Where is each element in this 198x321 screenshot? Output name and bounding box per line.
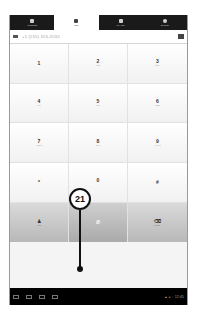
key-5[interactable]: 5JKL bbox=[69, 84, 128, 124]
key-9[interactable]: 9WXYZ bbox=[128, 123, 187, 163]
number-field[interactable]: +1 (555) 555-5555 bbox=[10, 30, 187, 44]
key-6[interactable]: 6MNO bbox=[128, 84, 187, 124]
home-icon[interactable] bbox=[26, 295, 32, 299]
recent-apps-icon[interactable] bbox=[39, 295, 45, 299]
callout-leader-line bbox=[79, 210, 81, 269]
clock-icon bbox=[163, 19, 167, 23]
delete-button[interactable]: ⌫ Delete bbox=[128, 203, 187, 243]
tab-my-info[interactable]: My Info bbox=[99, 15, 143, 30]
callout-pointer-dot bbox=[77, 266, 83, 272]
add-contact-button[interactable]: ♟ Add bbox=[10, 203, 69, 243]
keypad-icon bbox=[74, 19, 78, 23]
key-2[interactable]: 2ABC bbox=[69, 44, 128, 84]
contact-card-icon bbox=[119, 19, 123, 23]
key-3[interactable]: 3DEF bbox=[128, 44, 187, 84]
status-area[interactable]: ▲ ● ↑ 12:45 bbox=[164, 295, 184, 299]
phone-icon: ✆ bbox=[96, 220, 100, 225]
key-star[interactable]: * bbox=[10, 163, 69, 203]
callout-badge: 21 bbox=[69, 188, 91, 210]
key-8[interactable]: 8TUV bbox=[69, 123, 128, 163]
tab-contacts[interactable]: Contacts bbox=[10, 15, 54, 30]
person-icon bbox=[30, 19, 34, 23]
tablet-screen: Contacts Call My Info Events +1 (555) 55… bbox=[9, 15, 188, 305]
system-bar: ▲ ● ↑ 12:45 bbox=[10, 288, 187, 305]
dialed-number: +1 (555) 555-5555 bbox=[22, 34, 60, 39]
key-7[interactable]: 7PQRS bbox=[10, 123, 69, 163]
dial-pad: 1 2ABC 3DEF 4GHI 5JKL 6MNO 7PQRS 8TUV 9W… bbox=[10, 44, 187, 288]
key-4[interactable]: 4GHI bbox=[10, 84, 69, 124]
back-icon[interactable] bbox=[13, 295, 19, 299]
menu-icon[interactable] bbox=[52, 295, 58, 299]
contact-card-icon[interactable] bbox=[178, 34, 184, 39]
tab-events[interactable]: Events bbox=[143, 15, 187, 30]
tab-bar: Contacts Call My Info Events bbox=[10, 15, 187, 30]
tab-call[interactable]: Call bbox=[54, 15, 98, 30]
key-hash[interactable]: # bbox=[128, 163, 187, 203]
country-flag-icon[interactable] bbox=[13, 35, 18, 38]
key-1[interactable]: 1 bbox=[10, 44, 69, 84]
